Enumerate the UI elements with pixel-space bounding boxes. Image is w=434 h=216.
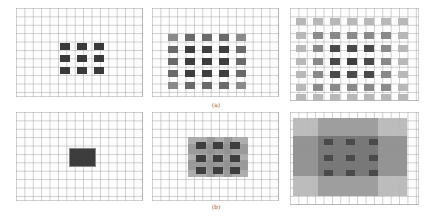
kernel-cell: [381, 18, 391, 25]
kernel-cell: [202, 46, 212, 53]
panel-a-3: [290, 8, 420, 104]
kernel-cell: [185, 58, 195, 65]
kernel-cell: [330, 18, 340, 25]
kernel-cell: [369, 139, 378, 145]
kernel-cell: [202, 34, 212, 41]
kernel-cell: [347, 84, 357, 91]
kernel-cell: [230, 155, 240, 162]
kernel-cell: [219, 34, 229, 41]
panel-b-3: [290, 112, 420, 208]
kernel-cell: [347, 45, 357, 52]
kernel-cell: [330, 45, 340, 52]
kernel-cell: [296, 32, 306, 39]
kernel-cell: [185, 70, 195, 77]
kernel-cell: [60, 55, 70, 62]
kernel-cell: [381, 45, 391, 52]
kernel-cell: [398, 18, 408, 25]
kernel-cell: [296, 58, 306, 65]
kernel-cell: [347, 71, 357, 78]
kernel-cell: [236, 46, 246, 53]
kernel-cell: [381, 94, 391, 101]
kernel-cell: [330, 32, 340, 39]
kernel-cell: [168, 46, 178, 53]
panel-b-2: [152, 112, 280, 204]
kernel-cell: [330, 84, 340, 91]
kernel-cell: [398, 58, 408, 65]
kernel-cell: [381, 58, 391, 65]
kernel-cell: [236, 34, 246, 41]
kernel-cell: [313, 18, 323, 25]
kernel-cell: [296, 45, 306, 52]
kernel-cell: [230, 142, 240, 149]
kernel-cell: [313, 32, 323, 39]
kernel-cell: [296, 18, 306, 25]
kernel-cell: [202, 58, 212, 65]
kernel-cell: [364, 94, 374, 101]
kernel-cell: [168, 58, 178, 65]
kernel-cell: [94, 67, 104, 74]
kernel-cell: [313, 94, 323, 101]
kernel-cell: [236, 58, 246, 65]
kernel-cell: [185, 46, 195, 53]
kernel-cell: [196, 167, 206, 174]
kernel-cell: [398, 84, 408, 91]
kernel-cell: [381, 71, 391, 78]
kernel-cell: [364, 45, 374, 52]
kernel-cell: [369, 155, 378, 161]
kernel-cell: [296, 94, 306, 101]
kernel-cell: [381, 32, 391, 39]
kernel-cell: [313, 71, 323, 78]
kernel-cell: [230, 167, 240, 174]
kernel-cell: [398, 32, 408, 39]
kernel-cell: [347, 18, 357, 25]
kernel-cell: [213, 142, 223, 149]
kernel-cell: [364, 32, 374, 39]
panel-b-1: [16, 112, 144, 204]
caption-b: (b): [201, 203, 231, 210]
kernel-cell: [398, 71, 408, 78]
kernel-cell: [296, 84, 306, 91]
kernel-cell: [77, 67, 87, 74]
kernel-cell: [398, 94, 408, 101]
kernel-cell: [313, 58, 323, 65]
kernel-cell: [213, 167, 223, 174]
kernel-cell: [398, 45, 408, 52]
kernel-cell: [364, 58, 374, 65]
kernel-cell: [219, 46, 229, 53]
kernel-cell: [364, 71, 374, 78]
kernel-cell: [313, 45, 323, 52]
kernel-cell: [168, 70, 178, 77]
kernel-cell: [236, 82, 246, 89]
kernel-cell: [346, 155, 355, 161]
kernel-cell: [60, 43, 70, 50]
kernel-cell: [213, 155, 223, 162]
kernel-cell: [94, 55, 104, 62]
kernel-cell: [381, 84, 391, 91]
kernel-cell: [296, 71, 306, 78]
panel-a-2: [152, 8, 280, 100]
kernel-cell: [77, 55, 87, 62]
receptive-field-block: [69, 148, 96, 167]
kernel-cell: [346, 170, 355, 176]
kernel-cell: [324, 155, 333, 161]
panel-a-1: [16, 8, 144, 100]
kernel-cell: [330, 58, 340, 65]
kernel-cell: [219, 82, 229, 89]
kernel-cell: [347, 32, 357, 39]
kernel-cell: [60, 67, 70, 74]
kernel-cell: [324, 139, 333, 145]
kernel-cell: [77, 43, 87, 50]
grid: [16, 8, 143, 97]
kernel-cell: [330, 94, 340, 101]
kernel-cell: [364, 18, 374, 25]
kernel-cell: [219, 70, 229, 77]
caption-a: (a): [201, 101, 231, 108]
kernel-cell: [196, 142, 206, 149]
kernel-cell: [330, 71, 340, 78]
kernel-cell: [202, 70, 212, 77]
kernel-cell: [202, 82, 212, 89]
kernel-cell: [364, 84, 374, 91]
kernel-cell: [185, 82, 195, 89]
kernel-cell: [346, 139, 355, 145]
kernel-cell: [313, 84, 323, 91]
